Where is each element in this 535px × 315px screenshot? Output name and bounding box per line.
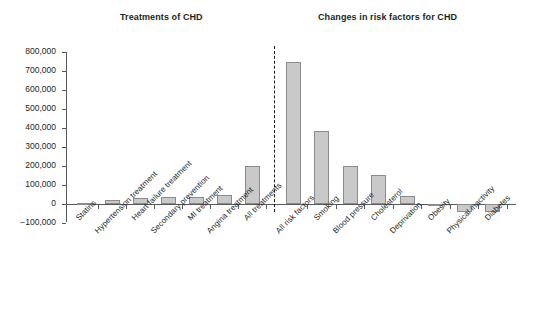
x-tick-label: Obesity <box>426 197 452 223</box>
x-tick-mark <box>66 205 67 209</box>
y-tick-label: 300,000 <box>0 141 56 151</box>
y-tick-label: 500,000 <box>0 103 56 113</box>
x-tick-mark <box>154 205 155 209</box>
y-tick-label: 200,000 <box>0 160 56 170</box>
y-tick-mark <box>62 223 66 224</box>
y-tick-mark <box>62 109 66 110</box>
x-tick-label: Statins <box>74 198 98 222</box>
chart-title-left: Treatments of CHD <box>120 12 203 22</box>
x-tick-mark <box>210 205 211 209</box>
y-tick-label: −100,000 <box>0 217 56 227</box>
y-tick-mark <box>62 128 66 129</box>
bar <box>286 62 301 204</box>
x-tick-mark <box>266 205 267 209</box>
y-axis-line <box>66 52 67 222</box>
x-tick-mark <box>450 205 451 209</box>
chart-figure: Treatments of CHD Changes in risk factor… <box>0 0 535 315</box>
y-tick-label: 100,000 <box>0 179 56 189</box>
y-tick-mark <box>62 147 66 148</box>
section-divider <box>274 46 275 212</box>
x-tick-mark <box>336 205 337 209</box>
y-tick-label: 700,000 <box>0 65 56 75</box>
y-tick-label: 400,000 <box>0 122 56 132</box>
x-tick-mark <box>507 205 508 209</box>
bar <box>314 131 329 204</box>
y-tick-label: 800,000 <box>0 46 56 56</box>
y-tick-label: 0 <box>0 198 56 208</box>
y-tick-mark <box>62 71 66 72</box>
y-tick-mark <box>62 185 66 186</box>
y-tick-mark <box>62 52 66 53</box>
bar <box>217 195 232 204</box>
chart-title-right: Changes in risk factors for CHD <box>318 12 457 22</box>
x-tick-mark <box>98 205 99 209</box>
x-tick-mark <box>393 205 394 209</box>
y-tick-mark <box>62 90 66 91</box>
y-tick-mark <box>62 166 66 167</box>
y-tick-label: 600,000 <box>0 84 56 94</box>
bar <box>343 166 358 204</box>
